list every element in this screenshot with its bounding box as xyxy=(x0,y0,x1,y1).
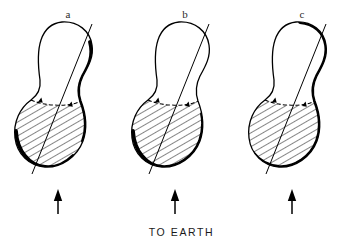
nucleus-panel-b xyxy=(132,22,210,174)
hatched-lobe-c xyxy=(249,100,320,167)
nucleus-panel-a xyxy=(15,22,93,174)
nucleus-panel-c xyxy=(249,22,327,174)
figure-canvas: a b c xyxy=(0,0,363,248)
to-earth-arrows xyxy=(54,189,296,214)
figure-caption: TO EARTH xyxy=(0,226,363,238)
to-earth-arrow-b xyxy=(171,189,179,214)
nucleus-diagram-svg xyxy=(0,0,363,248)
to-earth-arrow-c xyxy=(288,189,296,214)
to-earth-arrow-a xyxy=(54,189,62,214)
